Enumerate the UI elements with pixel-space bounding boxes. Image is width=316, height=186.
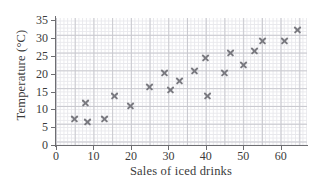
y-tick-mark [51,74,56,75]
x-tick-label: 50 [228,150,258,162]
data-point [145,82,154,91]
y-tick-label: 25 [8,50,48,62]
data-point [175,76,184,85]
data-point [110,91,119,100]
data-point [126,101,135,110]
data-point [166,85,175,94]
data-point [203,91,212,100]
data-point [83,117,92,126]
data-point [201,53,210,62]
y-tick-label: 20 [8,68,48,80]
x-tick-label: 0 [41,150,71,162]
y-tick-mark [51,127,56,128]
y-tick-label: 5 [8,121,48,133]
x-tick-label: 20 [116,150,146,162]
data-point [226,48,235,57]
y-tick-label: 15 [8,86,48,98]
data-point [81,98,90,107]
y-tick-mark [51,20,56,21]
y-tick-mark [51,56,56,57]
y-tick-label: 30 [8,32,48,44]
data-point [293,25,302,34]
data-point [280,36,289,45]
data-point [250,46,259,55]
x-tick-label: 30 [153,150,183,162]
data-point [190,66,199,75]
data-point [258,36,267,45]
y-tick-mark [51,92,56,93]
data-point [160,68,169,77]
data-point [70,114,79,123]
x-tick-label: 40 [191,150,221,162]
scatter-chart: Temperature (°C) 05101520253035 01020304… [0,0,316,186]
data-point [220,68,229,77]
x-axis-line [52,145,308,146]
y-tick-mark [51,38,56,39]
data-point [100,114,109,123]
data-point [239,60,248,69]
x-tick-label: 10 [78,150,108,162]
y-tick-label: 35 [8,14,48,26]
x-tick-label: 60 [266,150,296,162]
y-tick-label: 10 [8,103,48,115]
y-tick-mark [51,109,56,110]
x-axis-title: Sales of iced drinks [56,164,306,179]
